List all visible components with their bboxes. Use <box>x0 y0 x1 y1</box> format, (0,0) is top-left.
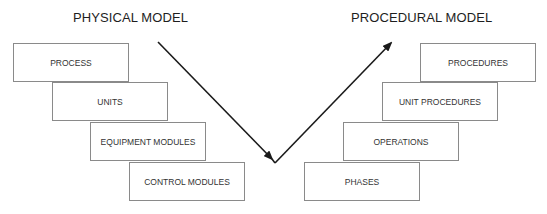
down-arrow <box>158 42 272 159</box>
v-arrow-diagram <box>0 0 547 214</box>
up-arrow <box>275 43 391 163</box>
